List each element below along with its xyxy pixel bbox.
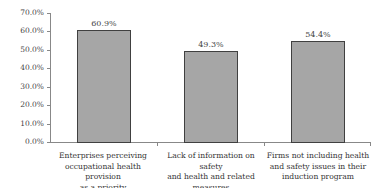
y-tick-label: 30.0% — [0, 83, 44, 91]
y-tick-label: 10.0% — [0, 120, 44, 128]
y-tick — [47, 68, 51, 69]
category-label: Firms not including health and safety is… — [263, 151, 373, 183]
y-tick-label: 40.0% — [0, 64, 44, 72]
category-label: Lack of information on safety and health… — [156, 151, 266, 188]
y-tick-label: 0.0% — [0, 138, 44, 146]
y-tick — [47, 50, 51, 51]
bar-chart: 70.0% 60.0% 50.0% 40.0% 30.0% 20.0% 10.0… — [0, 0, 384, 188]
y-tick — [47, 142, 51, 143]
bar-firms-not-including — [291, 41, 345, 143]
category-label: Enterprises perceiving occupational heal… — [48, 151, 158, 188]
y-tick-label: 50.0% — [0, 46, 44, 54]
data-label: 49.3% — [181, 40, 241, 49]
x-tick — [264, 142, 265, 146]
data-label: 54.4% — [288, 30, 348, 39]
y-tick-label: 20.0% — [0, 101, 44, 109]
y-tick — [47, 13, 51, 14]
bar-enterprises-priority — [77, 30, 131, 143]
y-tick-label: 60.0% — [0, 27, 44, 35]
x-tick — [370, 142, 371, 146]
x-tick — [157, 142, 158, 146]
y-tick — [47, 31, 51, 32]
y-tick — [47, 124, 51, 125]
y-tick-label: 70.0% — [0, 9, 44, 17]
y-tick — [47, 87, 51, 88]
bar-lack-of-information — [184, 51, 238, 143]
data-label: 60.9% — [74, 19, 134, 28]
y-tick — [47, 105, 51, 106]
